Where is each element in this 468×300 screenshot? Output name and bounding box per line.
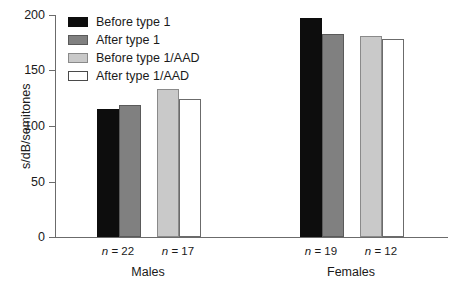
bar-males-before-type-1-aad — [157, 89, 179, 237]
group-label-females: Females — [315, 266, 387, 279]
bar-females-before-type-1-aad — [360, 36, 382, 237]
bar-males-after-type-1-aad — [179, 99, 201, 237]
y-axis-line — [55, 15, 56, 238]
y-axis-title: s/dB/semitones — [20, 56, 33, 196]
bar-females-before-type-1 — [300, 18, 322, 237]
legend-label-before-type-1: Before type 1 — [96, 16, 170, 29]
y-axis-tick-50 — [49, 182, 55, 183]
legend-swatch-icon-after-type-1 — [68, 35, 88, 45]
bar-females-after-type-1 — [322, 34, 344, 237]
legend-label-before-type-1-aad: Before type 1/AAD — [96, 52, 200, 65]
legend-item-before-type-1: Before type 1 — [68, 14, 228, 30]
legend-swatch-icon-before-type-1-aad — [68, 53, 88, 63]
y-axis-tick-200 — [49, 15, 55, 16]
legend-item-before-type-1-aad: Before type 1/AAD — [68, 50, 228, 66]
y-axis-tick-100 — [49, 126, 55, 127]
legend-item-after-type-1-aad: After type 1/AAD — [68, 68, 228, 84]
legend-swatch-icon-before-type-1 — [68, 17, 88, 27]
legend-label-after-type-1-aad: After type 1/AAD — [96, 70, 189, 83]
n-label-females-type-1-aad: n = 12 — [345, 246, 417, 258]
group-label-males: Males — [112, 266, 184, 279]
bar-chart-figure: 200 150 100 50 0 s/dB/semitones Before t… — [0, 0, 468, 300]
n-label-males-type-1-aad: n = 17 — [142, 246, 214, 258]
bar-males-after-type-1 — [119, 105, 141, 237]
legend-item-after-type-1: After type 1 — [68, 32, 228, 48]
bar-males-before-type-1 — [97, 109, 119, 237]
y-axis-tick-label-0: 0 — [38, 231, 45, 244]
x-axis-line — [55, 237, 448, 238]
y-axis-tick-label-50: 50 — [31, 176, 45, 189]
y-axis-tick-0 — [49, 237, 55, 238]
legend-label-after-type-1: After type 1 — [96, 34, 160, 47]
y-axis-tick-150 — [49, 70, 55, 71]
y-axis-tick-label-200: 200 — [24, 9, 45, 22]
legend: Before type 1 After type 1 Before type 1… — [68, 14, 228, 86]
bar-females-after-type-1-aad — [382, 39, 404, 237]
legend-swatch-icon-after-type-1-aad — [68, 71, 88, 81]
